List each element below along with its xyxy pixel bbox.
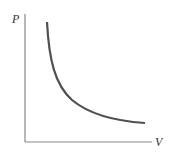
pv-curve	[47, 22, 145, 123]
y-axis-label: P	[11, 12, 20, 26]
x-axis-label: V	[155, 135, 164, 149]
pv-diagram: P V	[0, 0, 176, 152]
